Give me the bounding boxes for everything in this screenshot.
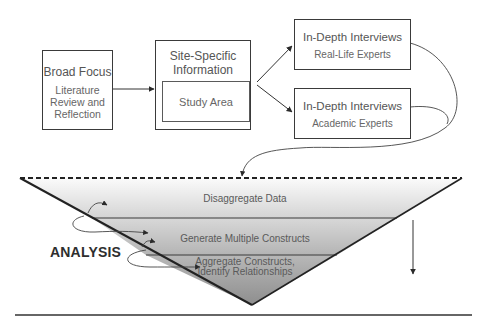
broad-focus-box: Broad Focus Literature Review and Reflec… [42, 50, 113, 130]
band-label-generate: Generate Multiple Constructs [150, 233, 340, 244]
site-specific-box: Site-Specific Information Study Area [155, 40, 251, 130]
interviews-academic-title: In-Depth Interviews [295, 99, 410, 113]
broad-focus-title: Broad Focus [43, 65, 112, 79]
interviews-real-life-title: In-Depth Interviews [295, 30, 410, 44]
broad-focus-sub-3: Reflection [43, 108, 112, 120]
study-area-label: Study Area [163, 96, 249, 108]
band-2-text: Generate Multiple Constructs [150, 233, 340, 244]
site-specific-title-2: Information [156, 63, 250, 77]
curve-into-funnel [242, 148, 300, 176]
curve-academic-to-funnel [410, 106, 448, 124]
interviews-real-life-box: In-Depth Interviews Real-Life Experts [294, 19, 411, 70]
band-label-disaggregate: Disaggregate Data [160, 193, 330, 204]
arrow-site-to-real [257, 46, 292, 82]
interviews-academic-box: In-Depth Interviews Academic Experts [294, 88, 411, 139]
broad-focus-sub-1: Literature [43, 84, 112, 96]
broad-focus-sub-2: Review and [43, 96, 112, 108]
band-label-aggregate: Aggregate Constructs, Identify Relations… [180, 257, 310, 277]
site-specific-title-1: Site-Specific [156, 49, 250, 63]
band-3-text-2: Identify Relationships [180, 267, 310, 277]
analysis-label: ANALYSIS [50, 244, 121, 260]
interviews-real-life-subtitle: Real-Life Experts [295, 49, 410, 61]
study-area-box: Study Area [162, 81, 250, 122]
arrow-site-to-academic [257, 85, 292, 112]
interviews-academic-subtitle: Academic Experts [295, 118, 410, 130]
band-1-text: Disaggregate Data [160, 193, 330, 204]
